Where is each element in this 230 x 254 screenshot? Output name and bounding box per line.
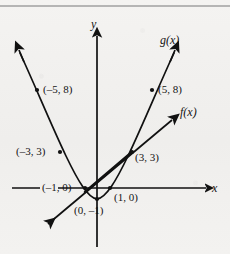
graph-svg — [0, 0, 230, 254]
x-axis-label: x — [212, 182, 217, 194]
point-marker — [83, 186, 87, 190]
point-label-neg3-3: (–3, 3) — [16, 146, 45, 157]
point-marker — [150, 88, 154, 92]
point-label-1-0: (1, 0) — [114, 192, 138, 203]
point-label-0-neg1: (0, –1) — [74, 205, 103, 216]
curve-label-f: f(x) — [180, 106, 197, 118]
point-label-5-8: (5, 8) — [158, 84, 182, 95]
point-label-neg5-8: (–5, 8) — [43, 84, 72, 95]
point-marker — [35, 88, 39, 92]
point-marker — [108, 186, 112, 190]
figure-canvas: y x g(x) f(x) (–5, 8) (5, 8) (–3, 3) (3,… — [0, 0, 230, 254]
curve-label-g: g(x) — [160, 34, 179, 46]
point-marker — [130, 150, 134, 154]
point-label-neg1-0: (–1, 0) — [42, 182, 71, 193]
point-marker — [95, 197, 99, 201]
point-marker — [58, 150, 62, 154]
line-curve-f — [48, 120, 172, 224]
y-axis-label: y — [91, 18, 96, 30]
point-label-3-3: (3, 3) — [135, 152, 159, 163]
